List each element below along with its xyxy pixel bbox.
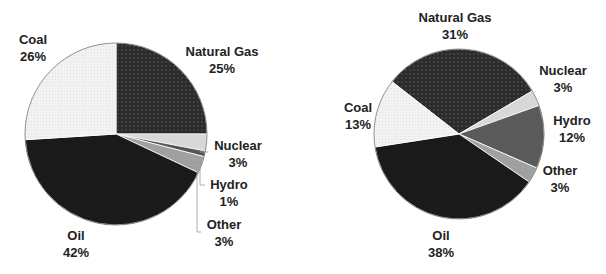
label-nuclear-pct-r: 3%: [554, 80, 573, 95]
label-nuclear-pct: 3%: [229, 155, 248, 170]
label-hydro-name: Hydro: [210, 177, 248, 192]
label-hydro-pct-r: 12%: [559, 130, 585, 145]
label-coal-pct: 26%: [20, 49, 46, 64]
label-coal-pct-r: 13%: [345, 117, 371, 132]
label-oil-pct: 42%: [63, 245, 89, 260]
label-natural-gas-pct: 25%: [209, 61, 235, 76]
label-hydro-name-r: Hydro: [553, 113, 591, 128]
label-oil-name: Oil: [67, 228, 84, 243]
label-coal-name: Coal: [19, 32, 47, 47]
pie-charts-canvas: Coal 26% Natural Gas 25% Nuclear 3% Hydr…: [0, 0, 606, 274]
label-nuclear-name: Nuclear: [214, 138, 262, 153]
label-other-pct-r: 3%: [551, 180, 570, 195]
label-nuclear-name-r: Nuclear: [539, 63, 587, 78]
label-other-pct: 3%: [215, 234, 234, 249]
label-hydro-pct: 1%: [220, 194, 239, 209]
label-oil-name-r: Oil: [432, 228, 449, 243]
label-oil-pct-r: 38%: [428, 245, 454, 260]
label-other-name-r: Other: [543, 163, 578, 178]
label-natural-gas-name: Natural Gas: [186, 44, 259, 59]
label-natural-gas-pct-r: 31%: [442, 27, 468, 42]
pie-chart-left: [25, 43, 207, 225]
label-other-name: Other: [207, 217, 242, 232]
pie-chart-right: [374, 49, 544, 219]
label-natural-gas-name-r: Natural Gas: [419, 10, 492, 25]
label-coal-name-r: Coal: [344, 100, 372, 115]
